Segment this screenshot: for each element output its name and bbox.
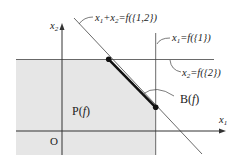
y-axis-label: x2 [49, 20, 59, 33]
x-axis-label: x1 [218, 114, 227, 127]
base-label: B(f) [180, 92, 199, 106]
origin-label: O [50, 135, 58, 147]
label-x1-constraint: x1=f({1}) [171, 32, 211, 45]
y-axis-arrow-icon [60, 23, 65, 30]
label-x2-constraint: x2=f({2}) [181, 67, 221, 80]
x-axis-arrow-icon [219, 129, 226, 134]
polymatroid-diagram: x2 x1 O P(f) B(f) x1+x2=f({1,2}) x1=f({1… [0, 0, 244, 164]
vertex-point [106, 57, 112, 63]
vertex-point [153, 105, 159, 111]
label-sum-constraint: x1+x2=f({1,2}) [94, 12, 157, 25]
region-label: P(f) [72, 104, 90, 118]
leader-base [143, 89, 174, 96]
leader-sum [79, 17, 93, 24]
leader-x1 [157, 38, 170, 44]
leader-x2 [170, 60, 181, 72]
